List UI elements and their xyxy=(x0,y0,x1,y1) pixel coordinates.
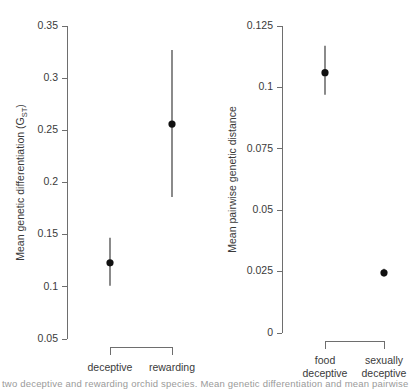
category-bracket-left xyxy=(110,347,172,355)
y-axis-title-right: Mean pairwise genetic distance xyxy=(226,106,238,253)
y-tick-label: 0.05 xyxy=(253,203,274,215)
y-tick-label: 0.3 xyxy=(43,71,58,83)
y-tick-label: 0.05 xyxy=(38,332,59,344)
caption-fragment: two deceptive and rewarding orchid speci… xyxy=(2,379,409,389)
category-labels-left: deceptiverewarding xyxy=(88,361,196,373)
y-tick-label: 0.125 xyxy=(247,19,273,31)
data-point-marker xyxy=(168,120,175,127)
y-tick-label: 0.15 xyxy=(38,227,59,239)
chart-panel-right: 00.0250.050.0750.10.125 fooddeceptivesex… xyxy=(212,0,418,390)
data-series-right xyxy=(321,46,387,277)
y-tick-label: 0.025 xyxy=(247,264,273,276)
category-labels-right: fooddeceptivesexuallydeceptive xyxy=(303,354,407,379)
y-axis-ticks-right xyxy=(277,26,282,333)
y-tick-label: 0 xyxy=(267,326,273,338)
data-point-marker xyxy=(321,69,328,76)
figure-container: 0.050.10.150.20.250.30.35 deceptiverewar… xyxy=(0,0,418,390)
y-axis-title-left: Mean genetic differentiation (GST) xyxy=(14,104,29,260)
y-axis-tick-labels-right: 00.0250.050.0750.10.125 xyxy=(247,19,273,338)
category-label: food xyxy=(315,354,336,366)
category-label: deceptive xyxy=(362,367,407,379)
y-tick-label: 0.25 xyxy=(38,123,59,135)
y-tick-label: 0.1 xyxy=(258,80,273,92)
category-label: deceptive xyxy=(303,367,348,379)
data-point-group xyxy=(380,269,387,277)
y-axis-tick-labels-left: 0.050.10.150.20.250.30.35 xyxy=(38,19,59,344)
y-axis-ticks-left xyxy=(62,26,67,339)
data-point-group xyxy=(106,238,113,286)
category-label: deceptive xyxy=(88,361,133,373)
data-point-marker xyxy=(380,269,387,276)
category-label: rewarding xyxy=(149,361,195,373)
caption-strip: two deceptive and rewarding orchid speci… xyxy=(0,379,418,390)
y-tick-label: 0.075 xyxy=(247,142,273,154)
data-point-group xyxy=(321,46,328,95)
data-point-group xyxy=(168,50,175,197)
data-point-marker xyxy=(106,259,113,266)
y-tick-label: 0.2 xyxy=(43,175,58,187)
chart-svg-left: 0.050.10.150.20.250.30.35 deceptiverewar… xyxy=(0,0,212,390)
y-tick-label: 0.35 xyxy=(38,19,59,31)
chart-svg-right: 00.0250.050.0750.10.125 fooddeceptivesex… xyxy=(212,0,418,390)
category-label: sexually xyxy=(365,354,404,366)
chart-panel-left: 0.050.10.150.20.250.30.35 deceptiverewar… xyxy=(0,0,212,390)
y-tick-label: 0.1 xyxy=(43,280,58,292)
data-series-left xyxy=(106,50,175,286)
category-bracket-right xyxy=(325,341,384,349)
